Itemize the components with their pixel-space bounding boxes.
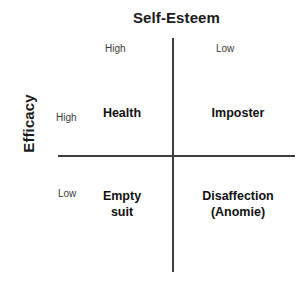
x-axis-level-low: Low — [216, 43, 234, 54]
quadrant-label-health: Health — [76, 105, 168, 121]
y-axis-level-low: Low — [58, 188, 76, 199]
x-axis-title: Self-Esteem — [58, 9, 295, 26]
x-axis-level-high: High — [105, 43, 126, 54]
y-axis-level-high: High — [56, 112, 77, 123]
quadrant-label-disaffection-anomie: Disaffection (Anomie) — [178, 188, 298, 220]
y-axis-title: Efficacy — [20, 84, 37, 164]
quadrant-label-imposter: Imposter — [180, 105, 296, 121]
horizontal-axis-line — [58, 155, 295, 157]
matrix-diagram: Self-Esteem Efficacy High Low High Low H… — [0, 0, 308, 283]
quadrant-label-empty-suit: Empty suit — [76, 188, 168, 220]
